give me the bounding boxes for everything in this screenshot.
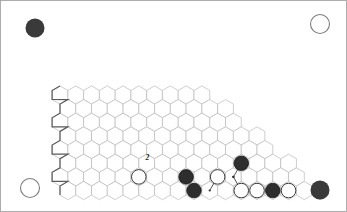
white-stone <box>281 183 296 198</box>
arrow-head-dot <box>209 189 211 191</box>
corner-bottom-right <box>311 181 330 200</box>
black-stone <box>266 183 281 198</box>
arrow-head-dot <box>232 176 234 178</box>
corner-top-right <box>311 15 330 34</box>
white-stone <box>210 170 225 185</box>
numbered-stone-1: 1 <box>161 164 165 173</box>
black-stone <box>179 170 194 185</box>
black-stone <box>234 156 249 171</box>
corner-bottom-left <box>21 179 40 198</box>
black-stone <box>187 183 202 198</box>
corner-top-left <box>26 19 45 38</box>
numbered-stone-2: 2 <box>145 153 150 162</box>
white-stone <box>132 170 147 185</box>
white-stone <box>250 183 265 198</box>
white-stone <box>234 183 249 198</box>
board-svg: 2 1 <box>0 0 347 212</box>
hex-board-diagram: 2 1 <box>0 0 347 212</box>
